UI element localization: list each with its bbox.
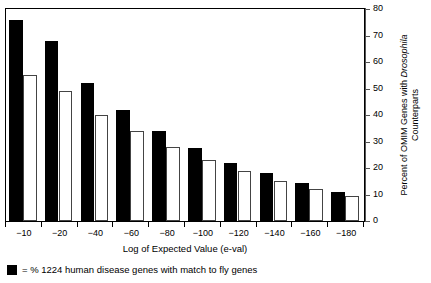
bar bbox=[45, 41, 59, 221]
y-tick-label: 40 bbox=[373, 110, 383, 119]
y-tick bbox=[365, 62, 370, 63]
x-tick-label: −180 bbox=[326, 229, 366, 238]
y-tick bbox=[365, 142, 370, 143]
x-tick bbox=[112, 222, 113, 227]
x-tick bbox=[291, 222, 292, 227]
x-tick-label: −100 bbox=[183, 229, 223, 238]
bar-group bbox=[328, 9, 364, 221]
x-tick bbox=[327, 222, 328, 227]
x-tick bbox=[41, 222, 42, 227]
bar bbox=[116, 110, 130, 221]
bar bbox=[95, 115, 109, 221]
y-tick-label: 30 bbox=[373, 137, 383, 146]
x-tick bbox=[77, 222, 78, 227]
y-tick bbox=[365, 221, 370, 222]
bar bbox=[331, 192, 345, 221]
bar bbox=[166, 147, 180, 221]
y-tick-label: 60 bbox=[373, 57, 383, 66]
bar-group bbox=[221, 9, 257, 221]
bar bbox=[224, 163, 238, 221]
y-tick-label: 10 bbox=[373, 190, 383, 199]
y-tick-label: 80 bbox=[373, 4, 383, 13]
x-tick-label: −80 bbox=[147, 229, 187, 238]
bar bbox=[59, 91, 73, 221]
y-axis-title-text: Percent of OMIM Genes with DrosophilaCou… bbox=[399, 34, 421, 195]
y-tick-label: 20 bbox=[373, 163, 383, 172]
x-tick bbox=[363, 222, 364, 227]
bar bbox=[260, 173, 274, 221]
bar bbox=[238, 171, 252, 221]
x-tick bbox=[184, 222, 185, 227]
legend-label: = % 1224 human disease genes with match … bbox=[22, 264, 257, 275]
bar-group bbox=[78, 9, 114, 221]
bar-group bbox=[149, 9, 185, 221]
x-tick-label: −40 bbox=[76, 229, 116, 238]
x-tick-label: −120 bbox=[219, 229, 259, 238]
bar-group bbox=[42, 9, 78, 221]
y-tick bbox=[365, 9, 370, 10]
x-axis-title: Log of Expected Value (e-val) bbox=[5, 243, 365, 254]
bar bbox=[295, 183, 309, 221]
y-tick-label: 70 bbox=[373, 31, 383, 40]
y-tick bbox=[365, 36, 370, 37]
bar bbox=[23, 75, 37, 221]
bar bbox=[130, 131, 144, 221]
x-tick-label: −20 bbox=[40, 229, 80, 238]
y-tick bbox=[365, 168, 370, 169]
bar-group bbox=[257, 9, 293, 221]
bar bbox=[152, 131, 166, 221]
y-axis-title: Percent of OMIM Genes with DrosophilaCou… bbox=[393, 8, 427, 222]
y-tick-label: 50 bbox=[373, 84, 383, 93]
bar bbox=[345, 196, 359, 221]
bar-group bbox=[292, 9, 328, 221]
y-tick bbox=[365, 195, 370, 196]
x-tick bbox=[148, 222, 149, 227]
x-tick bbox=[5, 222, 6, 227]
y-tick-label: 0 bbox=[373, 216, 378, 225]
bar bbox=[309, 189, 323, 221]
y-tick bbox=[365, 89, 370, 90]
bars-layer bbox=[6, 9, 364, 221]
y-axis-title-italic: Drosophila bbox=[399, 34, 409, 77]
bar bbox=[188, 148, 202, 221]
x-tick-label: −60 bbox=[111, 229, 151, 238]
legend: = % 1224 human disease genes with match … bbox=[7, 264, 257, 275]
bar bbox=[9, 20, 23, 221]
x-tick-label: −140 bbox=[255, 229, 295, 238]
bar-group bbox=[113, 9, 149, 221]
bar bbox=[81, 83, 95, 221]
bar-group bbox=[185, 9, 221, 221]
bar bbox=[274, 181, 288, 221]
x-tick-label: −10 bbox=[4, 229, 44, 238]
black-square-swatch-icon bbox=[7, 265, 17, 275]
x-tick bbox=[256, 222, 257, 227]
bar-chart: 01020304050607080 Percent of OMIM Genes … bbox=[0, 0, 431, 283]
bar bbox=[202, 160, 216, 221]
x-tick-label: −160 bbox=[290, 229, 330, 238]
bar-group bbox=[6, 9, 42, 221]
y-tick bbox=[365, 115, 370, 116]
x-tick bbox=[220, 222, 221, 227]
